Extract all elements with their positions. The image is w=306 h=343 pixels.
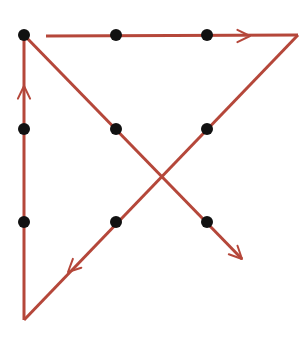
dot-r2-c2 <box>201 216 213 228</box>
dot-r1-c1 <box>110 123 122 135</box>
dot-r2-c1 <box>110 216 122 228</box>
nine-dots-diagram <box>0 0 306 343</box>
path-lines <box>24 35 298 320</box>
dot-r1-c2 <box>201 123 213 135</box>
dot-r0-c0 <box>18 29 30 41</box>
dot-r0-c2 <box>201 29 213 41</box>
path-line-right <box>46 35 298 36</box>
dot-r2-c0 <box>18 216 30 228</box>
dot-r1-c0 <box>18 123 30 135</box>
dot-r0-c1 <box>110 29 122 41</box>
